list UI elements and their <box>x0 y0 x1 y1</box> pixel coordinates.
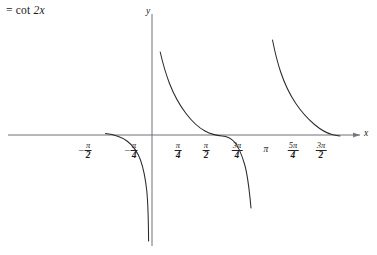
axes-group <box>8 14 360 246</box>
tick-minus-sign: − <box>125 146 131 156</box>
curve-branch-right <box>273 40 341 136</box>
tick-fraction: 3π4 <box>232 141 243 161</box>
tick-numerator: π <box>203 141 210 150</box>
tick-denominator: 4 <box>175 150 182 161</box>
tick-label-5pi-over-4: 5π4 <box>288 141 299 161</box>
tick-label-pi: π <box>264 145 269 155</box>
tick-label-pi-over-4: π4 <box>175 141 182 161</box>
tick-fraction: π2 <box>85 141 92 161</box>
tick-numerator: 5π <box>288 141 299 150</box>
tick-fraction: 3π2 <box>316 141 327 161</box>
tick-denominator: 2 <box>203 150 210 161</box>
tick-label-pi-over-2: π2 <box>203 141 210 161</box>
tick-numerator: π <box>85 141 92 150</box>
y-axis-label: y <box>146 6 150 16</box>
tick-fraction: π4 <box>175 141 182 161</box>
equation-function: cot <box>16 4 31 16</box>
tick-label-neg-pi-over-4: −π4 <box>125 141 138 161</box>
tick-label-neg-pi-over-2: −π2 <box>79 141 92 161</box>
equation-operator: = <box>6 4 13 16</box>
tick-fraction: 5π4 <box>288 141 299 161</box>
tick-numerator: 3π <box>316 141 327 150</box>
curve-group <box>106 40 341 241</box>
equation-label: = cot 2x <box>6 4 45 16</box>
tick-denominator: 2 <box>316 150 327 161</box>
tick-label-3pi-over-2: 3π2 <box>316 141 327 161</box>
tick-numerator: 3π <box>232 141 243 150</box>
tick-denominator: 4 <box>232 150 243 161</box>
tick-fraction: π2 <box>203 141 210 161</box>
tick-denominator: 2 <box>85 150 92 161</box>
plot-canvas <box>0 0 377 255</box>
tick-denominator: 4 <box>131 150 138 161</box>
curve-branch-center <box>160 52 251 208</box>
x-axis-label: x <box>364 128 368 138</box>
equation-argument: 2x <box>34 4 45 16</box>
tick-numerator: π <box>131 141 138 150</box>
tick-minus-sign: − <box>79 146 85 156</box>
tick-label-3pi-over-4: 3π4 <box>232 141 243 161</box>
cotangent-graph-figure: = cot 2x y x −π2 −π4 π4 π2 3π4 π 5π4 <box>0 0 377 255</box>
tick-denominator: 4 <box>288 150 299 161</box>
x-axis-arrow-icon <box>353 133 360 138</box>
tick-numerator: π <box>175 141 182 150</box>
tick-fraction: π4 <box>131 141 138 161</box>
tick-value: π <box>264 145 269 155</box>
